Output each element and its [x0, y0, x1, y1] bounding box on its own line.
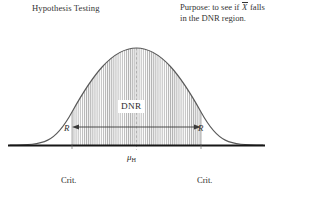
- crit-upper-line-1: Crit.: [197, 174, 218, 186]
- purpose-text-prefix: Purpose: to see if: [180, 2, 242, 12]
- critical-value-upper-label: Crit. Value Upper: [197, 150, 218, 200]
- critical-value-lower-label: Crit. Value Lower: [61, 150, 83, 200]
- mu-subscript: H: [132, 156, 136, 163]
- x-bar-symbol: X: [242, 2, 248, 13]
- rejection-region-right-label: R: [198, 123, 203, 133]
- figure-title: Hypothesis Testing: [32, 3, 100, 13]
- rejection-region-left-label: R: [64, 123, 69, 133]
- purpose-note: Purpose: to see if X falls in the DNR re…: [180, 2, 272, 24]
- crit-lower-line-1: Crit.: [61, 174, 83, 186]
- dnr-shaded-region: [72, 40, 201, 145]
- null-hypothesis-mean-label: μH: [127, 152, 136, 163]
- dnr-region-label: DNR: [118, 100, 145, 113]
